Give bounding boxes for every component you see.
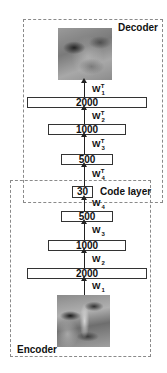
decoder-layer-2000: 2000: [27, 97, 147, 108]
arrow-icon: [84, 82, 85, 97]
encoder-layer-1000: 1000: [48, 240, 126, 251]
arrow-icon: [84, 166, 85, 186]
arrow-icon: [84, 223, 85, 240]
encoder-layer-2000: 2000: [27, 268, 147, 279]
arrow-icon: [84, 199, 85, 211]
decoder-layer-1000: 1000: [48, 124, 126, 135]
code-layer-label: Code layer: [100, 186, 151, 197]
weight-label-w4: W4: [92, 198, 105, 208]
weight-label-w1: W1: [92, 281, 105, 291]
arrow-icon: [84, 109, 85, 124]
encoder-label: Encoder: [17, 344, 57, 355]
arrow-icon: [84, 280, 85, 295]
weight-label-w4t: W4T: [92, 169, 105, 179]
arrow-icon: [84, 136, 85, 154]
decoder-label: Decoder: [118, 22, 158, 33]
input-face-image: [57, 295, 110, 347]
weight-label-w2: W2: [92, 254, 105, 264]
weight-label-w2t: W2T: [92, 111, 105, 121]
decoder-layer-500: 500: [61, 154, 113, 165]
encoder-layer-500: 500: [61, 211, 113, 222]
weight-label-w1t: W1T: [92, 84, 105, 94]
weight-label-w3t: W3T: [92, 139, 105, 149]
reconstructed-face-image: [58, 28, 112, 80]
weight-label-w3: W3: [92, 225, 105, 235]
arrow-icon: [84, 252, 85, 268]
